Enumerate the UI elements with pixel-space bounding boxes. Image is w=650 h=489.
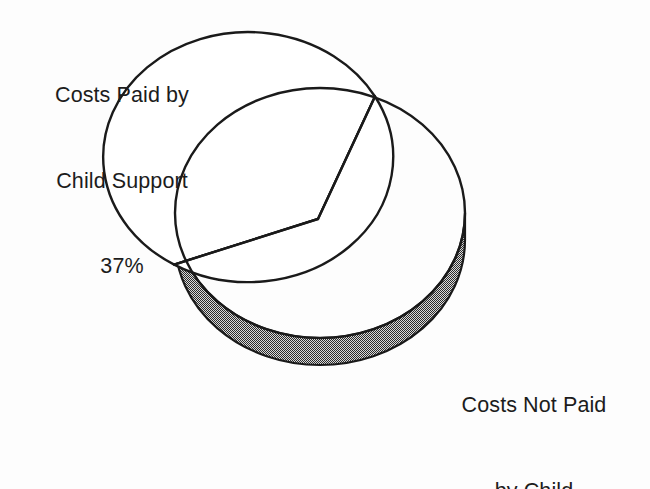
slice-label-costs-not-paid: Costs Not Paid by Child Support 63% bbox=[428, 334, 640, 489]
pie-chart-figure: Costs Paid by Child Support 37% Costs No… bbox=[0, 0, 650, 489]
slice-label-costs-paid-line1: Costs Paid by bbox=[22, 81, 222, 110]
slice-label-costs-not-paid-line2: by Child bbox=[428, 477, 640, 489]
slice-label-costs-paid-value: 37% bbox=[22, 252, 222, 281]
slice-label-costs-paid: Costs Paid by Child Support 37% bbox=[22, 24, 222, 338]
slice-label-costs-paid-line2: Child Support bbox=[22, 167, 222, 196]
slice-label-costs-not-paid-line1: Costs Not Paid bbox=[428, 391, 640, 420]
